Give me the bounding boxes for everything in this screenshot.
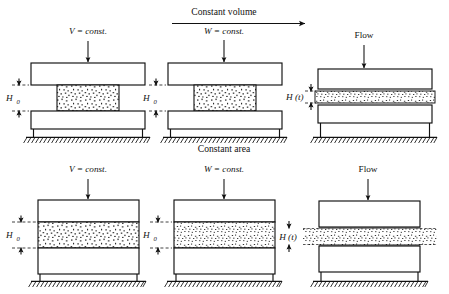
sample-top-left — [57, 85, 119, 111]
lower-plate-top-center — [168, 111, 282, 129]
lower-plate-bottom-right — [319, 246, 420, 272]
sample-bottom-left — [38, 222, 139, 248]
load-label-bottom-left: V = const. — [69, 164, 107, 174]
lower-plate-bottom-center — [174, 248, 275, 274]
load-label-bottom-right: Flow — [359, 164, 378, 174]
squeeze-flow-figure: Constant volume W = const. V = const. — [0, 0, 449, 294]
row-header-constant-area: Constant area — [198, 143, 251, 154]
sample-top-right — [315, 91, 435, 103]
lower-plate-top-right — [318, 105, 432, 123]
sample-bottom-right — [303, 228, 437, 245]
upper-plate-bottom-left — [38, 200, 139, 222]
upper-plate-bottom-right — [319, 201, 420, 227]
upper-plate-bottom-center — [174, 200, 275, 222]
sample-top-center — [194, 85, 256, 111]
sample-bottom-center — [174, 222, 275, 248]
load-label-bottom-center: W = const. — [204, 164, 244, 174]
gap-label-top-right: H (t) — [285, 92, 304, 102]
upper-plate-top-right — [318, 69, 432, 89]
gap-label-bottom-right: H (t) — [278, 232, 297, 242]
lower-plate-top-left — [31, 111, 145, 129]
lower-plate-bottom-left — [38, 248, 139, 274]
row-label-constant-volume: Constant volume — [191, 6, 256, 17]
row-label-constant-area: Constant area — [198, 143, 251, 154]
load-label-top-right: Flow — [355, 30, 374, 40]
figure-canvas: Constant volume W = const. V = const. — [0, 0, 449, 294]
load-label-top-left: V = const. — [69, 26, 107, 36]
upper-plate-top-center — [168, 63, 282, 85]
row-sublabel-constant-volume: W = const. — [204, 26, 244, 36]
upper-plate-top-left — [31, 63, 145, 85]
